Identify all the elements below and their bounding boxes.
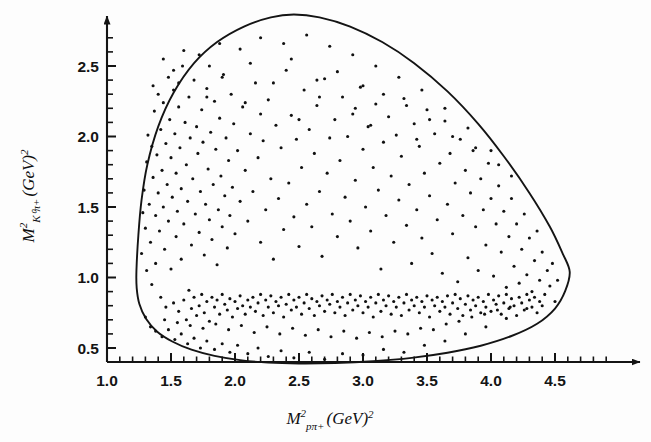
scatter-point (484, 306, 487, 309)
scatter-point (446, 203, 449, 206)
scatter-point (364, 300, 367, 303)
scatter-point (169, 267, 172, 270)
y-tick-label: 2.5 (77, 58, 99, 75)
scatter-point (150, 145, 153, 148)
scatter-point (402, 97, 405, 100)
scatter-point (176, 321, 179, 324)
scatter-point (397, 76, 400, 79)
scatter-point (149, 325, 152, 328)
scatter-point (285, 69, 288, 72)
scatter-point (433, 304, 436, 307)
scatter-point (194, 213, 197, 216)
scatter-point (400, 155, 403, 158)
x-axis-ticks (107, 353, 606, 362)
scatter-point (205, 300, 208, 303)
scatter-point (154, 214, 157, 217)
scatter-point (387, 115, 390, 118)
scatter-point (402, 351, 405, 354)
scatter-point (384, 214, 387, 217)
scatter-point (546, 269, 549, 272)
scatter-point (272, 81, 275, 84)
scatter-point (464, 332, 467, 335)
scatter-point (423, 306, 426, 309)
scatter-point (400, 314, 403, 317)
scatter-point (310, 225, 313, 228)
y-tick-label: 2.0 (77, 128, 99, 145)
scatter-point (228, 214, 231, 217)
scatter-point (313, 314, 316, 317)
scatter-point (329, 335, 332, 338)
scatter-point (213, 100, 216, 103)
scatter-point (328, 45, 331, 48)
scatter-point (236, 344, 239, 347)
scatter-point (382, 348, 385, 351)
scatter-point (269, 177, 272, 180)
scatter-point (297, 245, 300, 248)
scatter-point (408, 183, 411, 186)
x-tick-label: 3.5 (416, 372, 438, 389)
scatter-point (173, 338, 176, 341)
scatter-point (356, 246, 359, 249)
scatter-point (474, 225, 477, 228)
scatter-point (249, 306, 252, 309)
scatter-point (143, 189, 146, 192)
scatter-point (507, 235, 510, 238)
scatter-point (505, 293, 508, 296)
scatter-point (451, 301, 454, 304)
scatter-point (459, 297, 462, 300)
y-axis-title: M2K⁰π+(GeV)2 (17, 149, 42, 243)
scatter-point (390, 313, 393, 316)
scatter-point (305, 33, 308, 36)
scatter-point (200, 293, 203, 296)
scatter-point (207, 167, 210, 170)
scatter-point (240, 324, 243, 327)
scatter-point (464, 303, 467, 306)
scatter-point (171, 196, 174, 199)
scatter-point (368, 331, 371, 334)
scatter-point (482, 208, 485, 211)
scatter-point (199, 190, 202, 193)
scatter-point (175, 172, 178, 175)
scatter-point (278, 332, 281, 335)
scatter-point (395, 306, 398, 309)
scatter-point (221, 225, 224, 228)
scatter-point (292, 299, 295, 302)
scatter-point (326, 299, 329, 302)
scatter-point (180, 258, 183, 261)
scatter-point (415, 296, 418, 299)
scatter-point (305, 293, 308, 296)
scatter-point (381, 335, 384, 338)
scatter-point (497, 184, 500, 187)
scatter-point (198, 231, 201, 234)
scatter-point (244, 169, 247, 172)
scatter-point (446, 294, 449, 297)
scatter-point (395, 134, 398, 137)
scatter-point (292, 356, 295, 359)
scatter-point (308, 307, 311, 310)
scatter-point (259, 293, 262, 296)
scatter-point (454, 181, 457, 184)
scatter-point (282, 42, 285, 45)
scatter-point (466, 256, 469, 259)
scatter-point (333, 311, 336, 314)
scatter-point (295, 138, 298, 141)
scatter-point (393, 330, 396, 333)
x-axis-title: M2pπ+(GeV)2 (285, 407, 374, 432)
scatter-point (397, 296, 400, 299)
scatter-point (510, 197, 513, 200)
scatter-point (145, 269, 148, 272)
scatter-point (201, 327, 204, 330)
scatter-point (164, 306, 167, 309)
scatter-point (218, 313, 221, 316)
scatter-point (438, 310, 441, 313)
scatter-point (310, 297, 313, 300)
scatter-point (509, 306, 512, 309)
scatter-point (492, 275, 495, 278)
scatter-point (477, 296, 480, 299)
scatter-point (497, 294, 500, 297)
scatter-point (428, 118, 431, 121)
y-tick-label: 1.5 (77, 199, 99, 216)
scatter-point (392, 241, 395, 244)
scatter-point (223, 303, 226, 306)
scatter-point (262, 139, 265, 142)
